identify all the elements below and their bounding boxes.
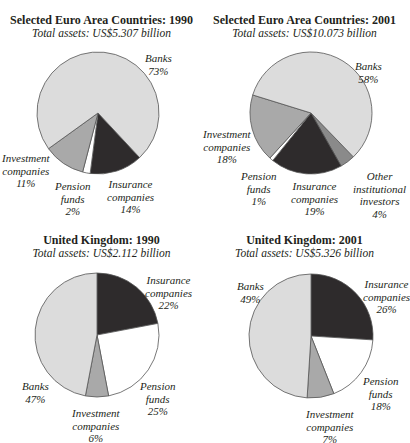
label-pension: Pensionfunds2% [55,180,90,218]
label-pension: Pensionfunds25% [140,380,175,418]
pie-chart [36,51,160,175]
chart-subtitle: Total assets: US$10.073 billion [203,27,406,39]
label-banks: Banks58% [355,60,382,85]
chart-uk-2001: United Kingdom: 2001 Total assets: US$5.… [203,220,406,443]
label-insurance: Insurancecompanies19% [291,180,338,218]
pie-chart [248,273,374,399]
label-pension: Pensionfunds1% [241,170,276,208]
label-banks: Banks49% [237,280,264,305]
label-other: Otherinstitutionalinvestors4% [353,170,406,220]
label-insurance: Insurancecompanies14% [107,178,154,216]
chart-euro-1990: Selected Euro Area Countries: 1990 Total… [0,0,203,220]
label-insurance: Insurancecompanies26% [363,278,410,316]
label-investment: Investmentcompanies18% [203,128,251,166]
chart-uk-1990: United Kingdom: 1990 Total assets: US$2.… [0,220,203,443]
label-investment: Investmentcompanies11% [2,152,50,190]
chart-subtitle: Total assets: US$5.307 billion [0,27,203,39]
slice-banks [35,273,97,396]
chart-euro-2001: Selected Euro Area Countries: 2001 Total… [203,0,406,220]
label-banks: Banks73% [145,52,172,77]
label-banks: Banks47% [22,380,49,405]
chart-title: Selected Euro Area Countries: 2001 [203,13,406,28]
label-pension: Pensionfunds18% [363,375,398,413]
chart-title: United Kingdom: 2001 [203,233,406,248]
chart-subtitle: Total assets: US$5.326 billion [203,247,406,259]
chart-subtitle: Total assets: US$2.112 billion [0,247,203,259]
label-investment: Investmentcompanies7% [306,408,354,443]
chart-title: Selected Euro Area Countries: 1990 [0,13,203,28]
label-investment: Investmentcompanies6% [72,407,120,443]
chart-title: United Kingdom: 1990 [0,233,203,248]
label-insurance: Insurancecompanies22% [145,274,192,312]
